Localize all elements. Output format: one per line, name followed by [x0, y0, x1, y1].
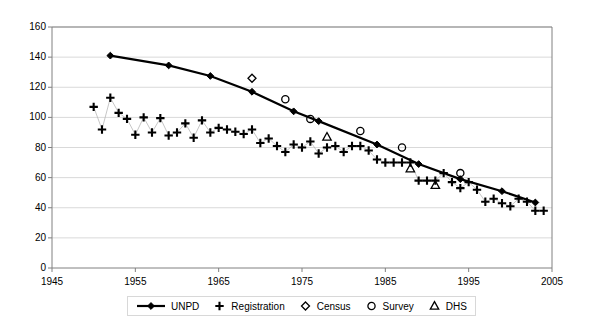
legend-label: Registration	[231, 301, 284, 312]
data-point	[306, 137, 314, 145]
data-point	[106, 94, 114, 102]
data-point	[298, 143, 306, 151]
legend-symbol-line-with-filled-diamond-icon	[136, 300, 166, 312]
data-point	[165, 62, 172, 69]
data-point	[374, 141, 381, 148]
legend-label: UNPD	[171, 301, 199, 312]
legend-label: Survey	[383, 301, 414, 312]
data-point	[282, 96, 289, 103]
legend-item-dhs[interactable]: DHS	[428, 300, 467, 312]
data-point	[223, 125, 231, 133]
data-point	[248, 74, 256, 82]
data-point	[107, 52, 114, 59]
chart-container: 160140120100806040200 194519551965197519…	[0, 0, 590, 333]
legend-label: DHS	[446, 301, 467, 312]
data-point	[239, 130, 247, 138]
data-point	[189, 134, 197, 142]
data-point	[207, 73, 214, 80]
legend-label: Census	[317, 301, 351, 312]
data-point	[498, 199, 506, 207]
data-point	[532, 199, 539, 206]
data-point	[389, 158, 397, 166]
legend-item-registration[interactable]: Registration	[213, 300, 284, 312]
data-point	[415, 161, 422, 168]
data-point	[290, 108, 297, 115]
data-point	[231, 127, 239, 135]
legend-symbol-plus-icon	[213, 300, 226, 312]
data-point	[164, 131, 172, 139]
legend-symbol-open-circle-icon	[365, 300, 378, 312]
data-point	[206, 128, 214, 136]
data-point	[381, 158, 389, 166]
data-point	[89, 103, 97, 111]
data-point	[148, 128, 156, 136]
data-point	[156, 114, 164, 122]
legend-item-unpd[interactable]: UNPD	[136, 300, 199, 312]
legend-item-census[interactable]: Census	[299, 300, 351, 312]
data-point	[323, 143, 331, 151]
data-point	[256, 139, 264, 147]
series-census	[248, 74, 256, 82]
series-unpd	[107, 52, 539, 206]
legend-symbol-open-diamond-icon	[299, 300, 312, 312]
legend-symbol-open-triangle-icon	[428, 300, 441, 312]
data-point	[248, 125, 256, 133]
series-survey	[282, 96, 464, 177]
data-point	[348, 142, 356, 150]
chart-legend: UNPDRegistrationCensusSurveyDHS	[127, 296, 476, 316]
data-point	[339, 148, 347, 156]
data-point	[98, 125, 106, 133]
legend-item-survey[interactable]: Survey	[365, 300, 414, 312]
data-point	[456, 184, 464, 192]
plot-area	[0, 0, 590, 333]
data-point	[398, 158, 406, 166]
series-registration	[89, 94, 547, 215]
data-point	[123, 115, 131, 123]
data-point	[314, 149, 322, 157]
data-point	[315, 118, 322, 125]
data-point	[114, 109, 122, 117]
data-point	[489, 195, 497, 203]
data-point	[357, 127, 364, 134]
data-point	[323, 133, 331, 141]
data-point	[131, 130, 139, 138]
data-point	[214, 124, 222, 132]
data-point	[356, 142, 364, 150]
data-point	[499, 188, 506, 195]
series-line	[110, 56, 535, 203]
data-point	[481, 198, 489, 206]
data-point	[139, 113, 147, 121]
data-point	[331, 142, 339, 150]
data-point	[249, 88, 256, 95]
